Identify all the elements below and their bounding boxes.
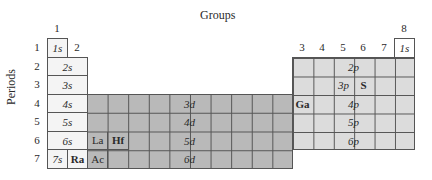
orbital-3d: 3d xyxy=(169,94,210,113)
group-label-3: 3 xyxy=(292,38,312,56)
orbital-7s: 7s xyxy=(47,149,68,169)
period-label-7: 7 xyxy=(27,149,47,167)
orbital-1s-helium: 1s xyxy=(394,38,415,58)
orbital-3p: 3p xyxy=(333,75,354,95)
period-label-5: 5 xyxy=(27,112,47,130)
group-label-2: 2 xyxy=(67,38,87,56)
orbital-3s: 3s xyxy=(47,75,88,95)
element-la: La xyxy=(88,132,108,150)
period-label-3: 3 xyxy=(27,75,47,93)
groups-title: Groups xyxy=(200,8,235,23)
orbital-6d: 6d xyxy=(169,149,210,169)
element-s: S xyxy=(353,75,374,95)
orbital-5d: 5d xyxy=(169,131,210,150)
orbital-4s: 4s xyxy=(47,94,88,113)
period-label-4: 4 xyxy=(27,94,47,112)
periods-axis-label: Periods xyxy=(4,45,19,105)
group-label-6: 6 xyxy=(353,38,373,56)
orbital-5s: 5s xyxy=(47,112,88,132)
group-label-7: 7 xyxy=(374,38,394,56)
orbital-6s: 6s xyxy=(47,131,88,150)
period-label-1: 1 xyxy=(27,38,47,56)
group-label-5: 5 xyxy=(333,38,353,56)
orbital-2s: 2s xyxy=(47,57,88,76)
orbital-1s: 1s xyxy=(47,38,68,58)
period-label-2: 2 xyxy=(27,57,47,75)
group-label-4: 4 xyxy=(312,38,332,56)
orbital-4d: 4d xyxy=(169,112,210,132)
group-label-1: 1 xyxy=(47,19,67,37)
element-ga: Ga xyxy=(292,94,313,113)
period-label-6: 6 xyxy=(27,131,47,149)
orbital-5p: 5p xyxy=(333,112,374,132)
orbital-2p: 2p xyxy=(333,57,374,76)
orbital-6p: 6p xyxy=(333,131,374,150)
element-ra: Ra xyxy=(67,149,88,169)
group-label-8: 8 xyxy=(394,19,414,37)
element-hf: Hf xyxy=(108,132,128,150)
element-ac: Ac xyxy=(88,150,108,168)
orbital-4p: 4p xyxy=(333,94,374,113)
